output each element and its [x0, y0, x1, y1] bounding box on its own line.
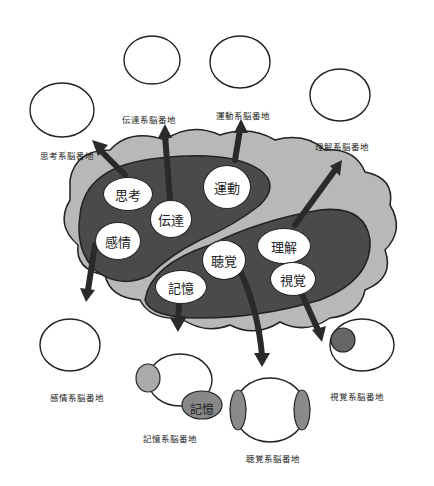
node-memory: 記憶: [155, 270, 207, 304]
caption-vision: 視覚系脳番地: [330, 390, 384, 402]
caption-emotion: 感情系脳番地: [50, 391, 104, 403]
node-hearing: 聴覚: [202, 240, 246, 280]
caption-understanding: 理解系脳番地: [315, 140, 369, 152]
memory-bag-label: 記憶: [190, 400, 214, 417]
caption-thinking: 思考系脳番地: [40, 149, 94, 161]
caption-hearing: 聴覚系脳番地: [246, 452, 300, 464]
caption-transmission: 伝達系脳番地: [122, 113, 176, 125]
node-vision: 視覚: [270, 262, 316, 296]
node-motor: 運動: [203, 165, 251, 209]
node-understanding: 理解: [257, 228, 311, 264]
node-emotion: 感情: [95, 222, 141, 260]
node-transmission: 伝達: [150, 200, 192, 238]
caption-memory: 記憶系脳番地: [143, 432, 197, 444]
caption-motor: 運動系脳番地: [216, 109, 270, 121]
node-thinking: 思考: [103, 177, 153, 211]
